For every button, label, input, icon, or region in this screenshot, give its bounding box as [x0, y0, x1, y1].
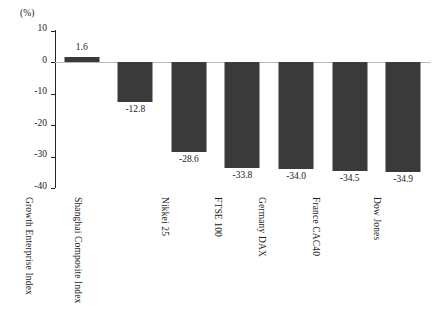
bar-group: -12.8Shanghai Composite Index	[109, 0, 163, 327]
bar-group: -33.8FTSE 100	[216, 0, 270, 327]
y-tick-label: -10	[34, 87, 47, 97]
bar-value-label: -12.8	[125, 105, 145, 115]
x-axis-category-label: Dow Jones	[372, 197, 382, 240]
bar-group: -34.9Dow Jones	[376, 0, 430, 327]
x-axis-category-label: France CAC40	[311, 197, 321, 256]
x-axis-category-label: Shanghai Composite Index	[73, 197, 83, 304]
plot-area: 1.6Growth Enterprise Index-12.8Shanghai …	[55, 0, 430, 327]
x-axis-category-label: Growth Enterprise Index	[23, 197, 33, 295]
bar-group: -34.0Germany DAX	[269, 0, 323, 327]
bar-value-label: -33.8	[233, 171, 253, 181]
x-axis-category-label: Germany DAX	[257, 197, 267, 257]
bar[interactable]	[332, 62, 367, 171]
bar[interactable]	[225, 62, 260, 168]
bar[interactable]	[118, 62, 153, 102]
bar-value-label: -28.6	[179, 155, 199, 165]
bar[interactable]	[386, 62, 421, 172]
bar-value-label: -34.9	[393, 175, 413, 185]
bar-value-label: -34.5	[340, 174, 360, 184]
bar-chart-figure: (%) 100-10-20-30-40 1.6Growth Enterprise…	[0, 0, 437, 327]
bar-value-label: 1.6	[76, 43, 88, 53]
bar[interactable]	[171, 62, 206, 152]
bar[interactable]	[279, 62, 314, 169]
y-tick-label: -20	[34, 119, 47, 129]
y-tick-label: -40	[34, 182, 47, 192]
y-tick-label: -30	[34, 150, 47, 160]
x-axis-category-label: FTSE 100	[213, 197, 223, 237]
y-axis-unit-label: (%)	[20, 9, 35, 19]
bar-group: -28.6Nikkei 25	[162, 0, 216, 327]
bar[interactable]	[64, 57, 99, 62]
bar-value-label: -34.0	[286, 172, 306, 182]
x-axis-category-label: Nikkei 25	[160, 197, 170, 236]
y-tick-label: 0	[42, 56, 47, 66]
y-tick-label: 10	[38, 24, 48, 34]
bar-group: -34.5France CAC40	[323, 0, 377, 327]
